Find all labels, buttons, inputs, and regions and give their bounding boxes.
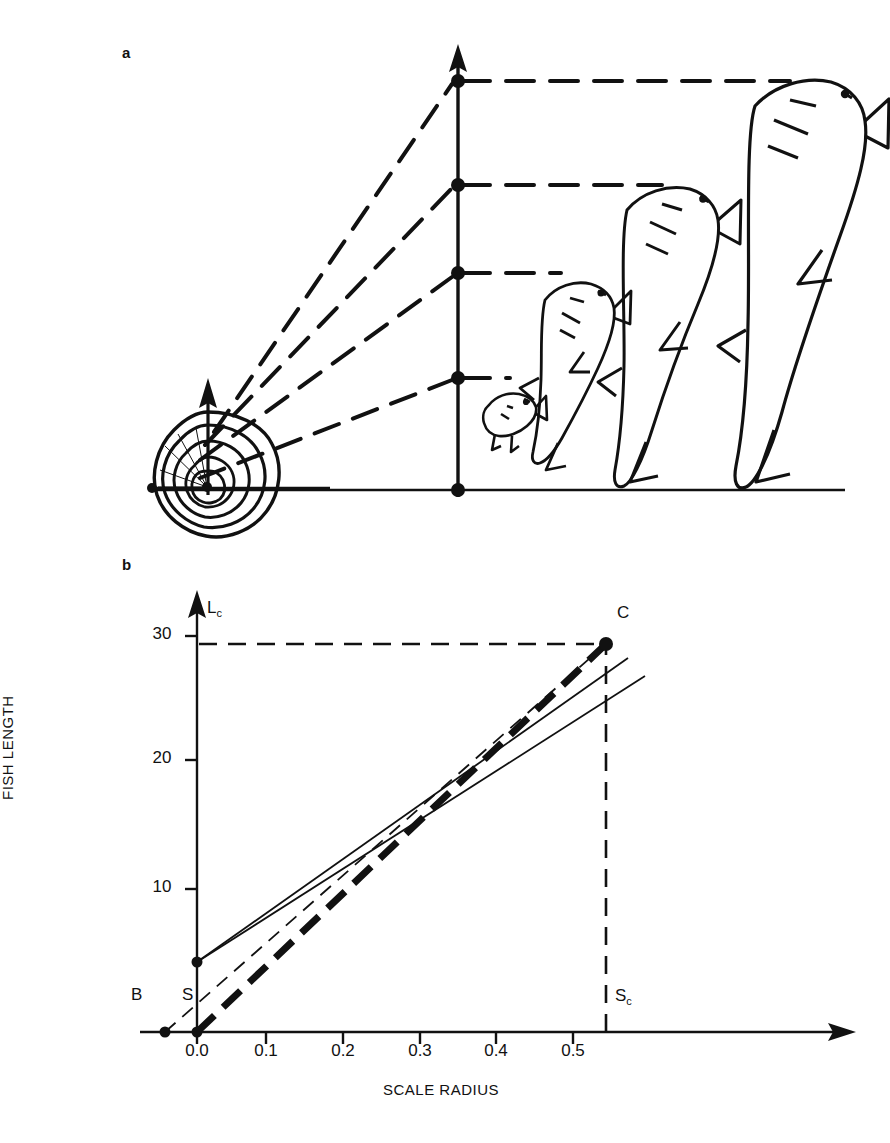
label-Sc-main: S [615,986,626,1005]
x-tick-label-2: 0.2 [318,1041,368,1061]
projection-line-3 [205,188,452,445]
point-B-dot [160,1027,171,1038]
x-axis-title: SCALE RADIUS [383,1081,499,1098]
panel-b-label: b [122,556,131,573]
y-axis-title: FISH LENGTH [0,695,16,800]
fish-silhouette-3 [598,188,741,487]
regression-line-1 [197,658,628,962]
panel-b-chart [0,580,890,1100]
regression-line-2 [197,676,645,962]
label-Lc-sub: c [216,607,222,619]
label-Sc-sub: c [626,995,632,1007]
point-B-label: B [131,985,142,1005]
x-tick-label-5: 0.5 [548,1041,598,1061]
label-Sc: Sc [615,986,632,1007]
projection-line-4 [214,84,452,432]
y-tick-label-20: 20 [142,748,182,768]
point-S-label: S [182,985,193,1005]
scale-to-axis-projection-lines [200,84,452,478]
x-tick-label-3: 0.3 [395,1041,445,1061]
x-tick-label-0: 0.0 [172,1041,222,1061]
point-C-label: C [617,603,629,623]
fish-silhouette-4 [718,80,889,488]
y-axis-ticks [185,636,197,889]
fish-silhouette-2 [520,283,631,470]
intercept-A-dot [192,957,203,968]
point-C-dot [599,637,613,651]
axis-node-origin [451,483,465,497]
panel-a-diagram [0,0,890,540]
x-tick-label-4: 0.4 [471,1041,521,1061]
label-Lc: Lc [207,598,222,619]
y-tick-label-10: 10 [142,877,182,897]
figure-root: a [0,0,890,1143]
y-tick-label-30: 30 [142,624,182,644]
x-tick-label-1: 0.1 [241,1041,291,1061]
projection-line-2 [200,277,452,460]
point-S-dot [192,1027,203,1038]
direct-proportion-line [197,644,606,1032]
